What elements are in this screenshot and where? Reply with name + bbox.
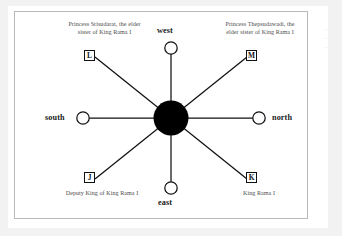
node-west-circle (165, 42, 177, 54)
node-box-K: K (246, 172, 257, 183)
caption-M-line1: Princess Thepsudawadi, the (196, 20, 324, 28)
caption-L: Princess Srisudarat, the elder sister of… (37, 20, 172, 37)
node-box-M: M (246, 50, 257, 61)
caption-K-line1: King Rama I (205, 189, 313, 197)
caption-M: Princess Thepsudawadi, the elder sister … (196, 20, 324, 37)
node-north-circle (253, 112, 265, 124)
edge-mark-2: — (324, 33, 340, 42)
center-hub (154, 101, 189, 136)
caption-L-line2: sister of King Rama I (37, 28, 172, 36)
edge-mark-1: — (324, 24, 340, 33)
caption-J: Deputy King of King Rama I (32, 189, 172, 197)
caption-L-line1: Princess Srisudarat, the elder (37, 20, 172, 28)
edge-mark-3: — (324, 42, 340, 51)
caption-K: King Rama I (205, 189, 313, 197)
page-canvas: L M J K west east north south Princess S… (0, 0, 342, 236)
direction-label-east: east (158, 198, 172, 207)
caption-M-line2: elder sister of King Rama I (196, 28, 324, 36)
direction-label-north: north (272, 113, 292, 122)
page-edge-marks: — — — (324, 24, 340, 51)
node-south-circle (77, 112, 89, 124)
node-box-L: L (84, 50, 95, 61)
direction-label-south: south (45, 113, 65, 122)
node-box-J: J (84, 172, 95, 183)
caption-J-line1: Deputy King of King Rama I (32, 189, 172, 197)
